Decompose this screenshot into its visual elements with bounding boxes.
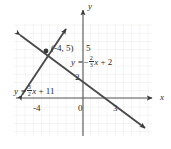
coordinate-graph-figure: y x (-4, 5) 5 2 -4 3 0 y =−23x + 2 y =32… [0, 0, 171, 149]
y-tick-2: 2 [75, 73, 80, 82]
origin-label: 0 [78, 104, 83, 113]
intersection-point-marker [44, 49, 49, 54]
y-axis-label: y [88, 2, 92, 11]
equation-1-sign: − [83, 57, 88, 67]
equation-1-lhs: y = [71, 57, 83, 67]
equation-label-negative-two-thirds: y =−23x + 2 [71, 55, 112, 69]
intersection-point-label: (-4, 5) [51, 44, 74, 53]
x-axis-label: x [160, 93, 164, 102]
equation-1-variable: x [94, 57, 98, 67]
equation-1-constant: + 2 [101, 57, 113, 67]
x-tick-minus-4: -4 [33, 104, 41, 113]
equation-2-constant: + 11 [38, 86, 54, 96]
equation-2-variable: x [32, 86, 36, 96]
x-tick-3: 3 [113, 104, 118, 113]
equation-label-three-halves: y =32x + 11 [14, 84, 54, 98]
y-tick-5: 5 [86, 44, 91, 53]
graph-canvas [0, 0, 171, 149]
equation-2-lhs: y = [14, 86, 26, 96]
